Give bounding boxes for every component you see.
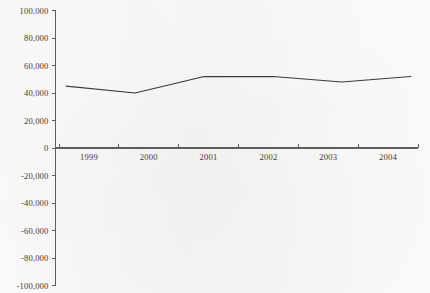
y-tick-label: 40,000 [0,88,49,98]
x-tick-label: 2002 [259,152,277,162]
data-line-series-0 [66,77,411,94]
y-axis-ticks [52,11,56,286]
y-tick-label: 0 [0,143,49,153]
y-tick-label: -20,000 [0,171,49,181]
x-tick-label: 2004 [379,152,397,162]
data-series-group [66,77,411,94]
y-tick-label: 60,000 [0,61,49,71]
line-chart-figure: 100,00080,00060,00040,00020,0000-20,000-… [0,0,430,293]
x-tick-label: 2001 [200,152,218,162]
axes-group [56,11,419,286]
x-tick-label: 2003 [319,152,337,162]
y-tick-label: -80,000 [0,253,49,263]
y-tick-label: -40,000 [0,198,49,208]
x-tick-label: 1999 [80,152,98,162]
x-axis-ticks [59,144,418,148]
chart-plot-area [0,0,430,293]
y-tick-label: 80,000 [0,33,49,43]
y-tick-label: -100,000 [0,281,49,291]
x-tick-label: 2000 [140,152,158,162]
y-tick-label: -60,000 [0,226,49,236]
y-tick-label: 20,000 [0,116,49,126]
y-tick-label: 100,000 [0,6,49,16]
